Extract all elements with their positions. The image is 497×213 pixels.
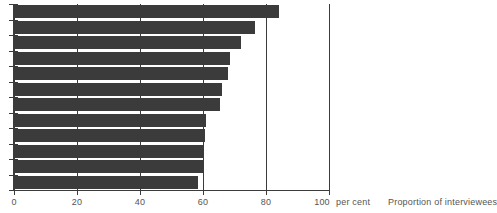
bar (14, 52, 230, 65)
bar-row (14, 98, 329, 111)
x-tick-0 (14, 190, 15, 195)
x-axis-label-60: 60 (198, 197, 208, 207)
y-tick (9, 82, 18, 83)
bar-row (14, 5, 329, 18)
x-axis-label-40: 40 (135, 197, 145, 207)
bar-row (14, 114, 329, 127)
gridline-100 (329, 4, 330, 190)
y-tick (9, 128, 18, 129)
x-axis-spine (13, 190, 330, 191)
y-tick (9, 175, 18, 176)
bar-row (14, 83, 329, 96)
x-axis-label-80: 80 (261, 197, 271, 207)
y-tick (9, 20, 18, 21)
plot-area (14, 4, 329, 190)
x-tick-40 (140, 190, 141, 195)
x-axis-unit-label: per cent (336, 197, 370, 207)
bar-row (14, 36, 329, 49)
x-axis-label-100: 100 (314, 197, 330, 207)
bar (14, 21, 255, 34)
y-tick (9, 35, 18, 36)
y-tick (9, 159, 18, 160)
y-tick (9, 97, 18, 98)
bar (14, 114, 206, 127)
x-axis-label-20: 20 (72, 197, 82, 207)
y-tick (9, 144, 18, 145)
bar (14, 83, 222, 96)
y-tick (9, 4, 18, 5)
bar-row (14, 21, 329, 34)
bar (14, 5, 279, 18)
bar-row (14, 160, 329, 173)
bar (14, 160, 203, 173)
bar-row (14, 67, 329, 80)
x-tick-80 (266, 190, 267, 195)
x-axis-caption: Proportion of interviewees (388, 197, 497, 207)
bar (14, 129, 205, 142)
bar-row (14, 145, 329, 158)
bar-row (14, 129, 329, 142)
x-tick-20 (77, 190, 78, 195)
x-tick-60 (203, 190, 204, 195)
bar (14, 176, 198, 189)
y-tick (9, 113, 18, 114)
bar (14, 98, 220, 111)
bar (14, 36, 241, 49)
bar-row (14, 52, 329, 65)
y-tick (9, 66, 18, 67)
y-tick (9, 51, 18, 52)
bar (14, 67, 228, 80)
x-axis-label-0: 0 (11, 197, 16, 207)
bar-row (14, 176, 329, 189)
bar (14, 145, 203, 158)
x-tick-100 (329, 190, 330, 195)
